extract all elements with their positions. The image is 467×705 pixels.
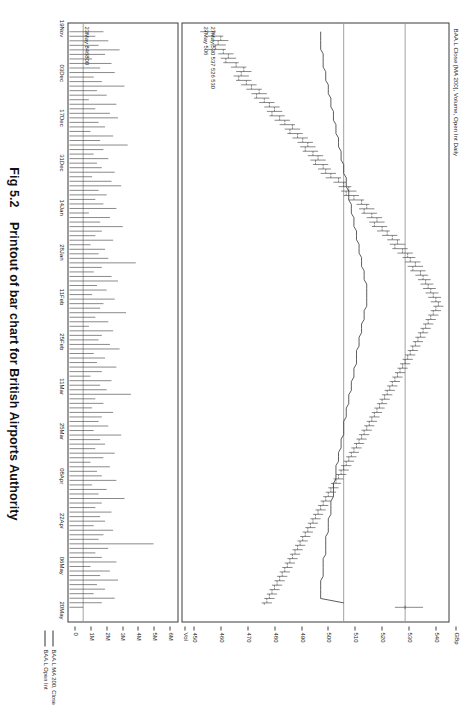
- y-tick-label: 480: [272, 626, 278, 642]
- y-tick-label: 460: [218, 626, 224, 642]
- volume-y-axis: Vol6M5M4M3M2M1M0: [67, 624, 178, 670]
- x-axis-date-ticks: 19Nov03Dec17Dec31Dec14Jan28Jan11Feb25Feb…: [41, 22, 65, 622]
- volume-bars-svg: [68, 23, 177, 621]
- x-tick-label: 11Mar: [58, 378, 64, 395]
- x-tick-label: 17Dec: [58, 109, 64, 126]
- x-tick-label: 20May: [58, 601, 64, 619]
- legend-item: BAA.L Open Int: [41, 630, 49, 705]
- legend-swatch-line-icon: [53, 630, 54, 646]
- chart-legend: BAA.L MA 200, CloseBAA.L Open Int: [41, 630, 57, 705]
- y-tick-label: 3M: [120, 626, 126, 640]
- y-tick-label: 0: [72, 626, 78, 635]
- x-tick-label: 22Apr: [58, 512, 64, 528]
- figure-caption: Fig 5.2 Printout of bar chart for Britis…: [6, 0, 20, 687]
- legend-label: BAA.L Open Int: [42, 649, 48, 689]
- x-tick-label: 31Dec: [58, 154, 64, 171]
- legend-item: BAA.L MA 200, Close: [49, 630, 57, 705]
- x-tick-label: 08Apr: [58, 468, 64, 484]
- y-tick-label: 450: [191, 626, 197, 642]
- price-yaxis-unit-label: GBp: [453, 626, 459, 644]
- price-quote-line-1: 27May 530 537 526 530: [208, 26, 215, 89]
- legend-swatch-line-icon: [45, 630, 46, 646]
- x-tick-label: 06May: [58, 556, 64, 574]
- x-tick-label: 14Jan: [58, 199, 64, 215]
- volume-yaxis-unit-label: Vol: [182, 626, 188, 640]
- y-tick-label: 500: [325, 626, 331, 642]
- price-panel[interactable]: [181, 22, 449, 622]
- volume-panel[interactable]: [67, 22, 178, 622]
- y-tick-label: 470: [245, 626, 251, 642]
- chart-title: BAA.L Close [MA 200], Volume, Open Int D…: [452, 28, 459, 156]
- y-tick-label: 2M: [104, 626, 110, 640]
- y-tick-label: 4M: [135, 626, 141, 640]
- figure-caption-text: Printout of bar chart for British Airpor…: [6, 221, 20, 520]
- y-tick-label: 490: [299, 626, 305, 642]
- y-tick-label: 6M: [167, 626, 173, 640]
- volume-quote-line-1: 23May 846800: [82, 26, 89, 64]
- x-tick-label: 28Jan: [58, 244, 64, 260]
- price-quote-line-2: 27May 506: [201, 26, 208, 89]
- x-tick-label: 25Mar: [58, 422, 64, 439]
- figure-number: Fig 5.2: [6, 167, 20, 207]
- y-tick-label: 540: [433, 626, 439, 642]
- volume-plot-area: [68, 23, 177, 621]
- legend-label: BAA.L MA 200, Close: [50, 649, 56, 705]
- y-tick-label: 5M: [151, 626, 157, 640]
- x-tick-label: 11Feb: [58, 288, 64, 305]
- x-tick-label: 19Nov: [58, 19, 64, 36]
- y-tick-label: 520: [379, 626, 385, 642]
- price-plot-area: [182, 23, 448, 621]
- price-quote-callout: 27May 530 537 526 530 27May 506: [201, 26, 215, 89]
- y-tick-label: 1M: [88, 626, 94, 640]
- y-tick-label: 530: [406, 626, 412, 642]
- chart-printout: BAA.L Close [MA 200], Volume, Open Int D…: [35, 8, 461, 672]
- x-tick-label: 03Dec: [58, 64, 64, 81]
- y-tick-label: 510: [352, 626, 358, 642]
- x-tick-label: 25Feb: [58, 333, 64, 350]
- price-ohlc-svg: [182, 23, 448, 621]
- price-y-axis: GBp540530520510500490480470460450: [181, 624, 449, 670]
- volume-quote-callout: 23May 846800: [82, 26, 89, 64]
